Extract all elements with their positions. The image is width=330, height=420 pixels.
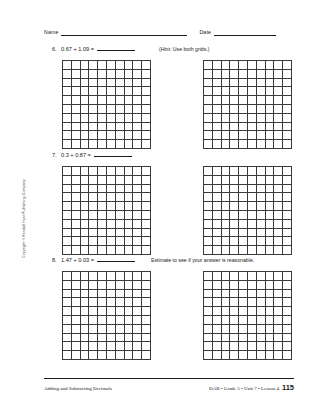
grid-cell[interactable] xyxy=(213,229,222,238)
grid-cell[interactable] xyxy=(222,334,231,343)
grid-cell[interactable] xyxy=(72,70,81,79)
grid-cell[interactable] xyxy=(98,79,107,88)
grid-cell[interactable] xyxy=(257,61,266,70)
grid-cell[interactable] xyxy=(266,167,275,176)
grid-cell[interactable] xyxy=(133,351,142,360)
grid-cell[interactable] xyxy=(266,316,275,325)
grid-cell[interactable] xyxy=(283,96,292,105)
grid-cell[interactable] xyxy=(213,61,222,70)
grid-cell[interactable] xyxy=(81,281,90,290)
grid-cell[interactable] xyxy=(248,229,257,238)
grid-cell[interactable] xyxy=(266,246,275,255)
hundredths-grid-right[interactable] xyxy=(203,271,292,360)
grid-cell[interactable] xyxy=(89,193,98,202)
grid-cell[interactable] xyxy=(107,185,116,194)
grid-cell[interactable] xyxy=(274,131,283,140)
grid-cell[interactable] xyxy=(266,202,275,211)
grid-cell[interactable] xyxy=(274,272,283,281)
grid-cell[interactable] xyxy=(125,334,134,343)
grid-cell[interactable] xyxy=(133,176,142,185)
grid-cell[interactable] xyxy=(125,61,134,70)
grid-cell[interactable] xyxy=(274,105,283,114)
grid-cell[interactable] xyxy=(222,307,231,316)
grid-cell[interactable] xyxy=(63,114,72,123)
grid-cell[interactable] xyxy=(107,307,116,316)
grid-cell[interactable] xyxy=(125,342,134,351)
grid-cell[interactable] xyxy=(283,87,292,96)
grid-cell[interactable] xyxy=(63,131,72,140)
grid-cell[interactable] xyxy=(266,229,275,238)
grid-cell[interactable] xyxy=(257,167,266,176)
grid-cell[interactable] xyxy=(116,307,125,316)
grid-cell[interactable] xyxy=(257,79,266,88)
grid-cell[interactable] xyxy=(89,342,98,351)
grid-cell[interactable] xyxy=(72,61,81,70)
grid-cell[interactable] xyxy=(230,193,239,202)
grid-cell[interactable] xyxy=(204,131,213,140)
grid-cell[interactable] xyxy=(248,342,257,351)
grid-cell[interactable] xyxy=(274,342,283,351)
problem-6-answer-blank[interactable] xyxy=(97,44,135,51)
grid-cell[interactable] xyxy=(230,220,239,229)
grid-cell[interactable] xyxy=(63,70,72,79)
grid-cell[interactable] xyxy=(222,211,231,220)
grid-cell[interactable] xyxy=(72,290,81,299)
grid-cell[interactable] xyxy=(98,325,107,334)
grid-cell[interactable] xyxy=(133,167,142,176)
grid-cell[interactable] xyxy=(63,140,72,149)
grid-cell[interactable] xyxy=(107,70,116,79)
grid-cell[interactable] xyxy=(98,70,107,79)
grid-cell[interactable] xyxy=(204,105,213,114)
grid-cell[interactable] xyxy=(248,176,257,185)
grid-cell[interactable] xyxy=(239,237,248,246)
grid-cell[interactable] xyxy=(107,281,116,290)
grid-cell[interactable] xyxy=(283,185,292,194)
grid-cell[interactable] xyxy=(125,87,134,96)
grid-cell[interactable] xyxy=(204,316,213,325)
grid-cell[interactable] xyxy=(125,131,134,140)
grid-cell[interactable] xyxy=(81,307,90,316)
grid-cell[interactable] xyxy=(133,307,142,316)
grid-cell[interactable] xyxy=(239,229,248,238)
grid-cell[interactable] xyxy=(142,131,151,140)
grid-cell[interactable] xyxy=(81,114,90,123)
grid-cell[interactable] xyxy=(257,202,266,211)
grid-cell[interactable] xyxy=(63,96,72,105)
grid-cell[interactable] xyxy=(142,202,151,211)
grid-cell[interactable] xyxy=(257,272,266,281)
grid-cell[interactable] xyxy=(248,211,257,220)
grid-cell[interactable] xyxy=(222,342,231,351)
grid-cell[interactable] xyxy=(142,87,151,96)
grid-cell[interactable] xyxy=(213,114,222,123)
grid-cell[interactable] xyxy=(213,290,222,299)
grid-cell[interactable] xyxy=(107,325,116,334)
grid-cell[interactable] xyxy=(72,316,81,325)
grid-cell[interactable] xyxy=(248,202,257,211)
grid-cell[interactable] xyxy=(213,211,222,220)
grid-cell[interactable] xyxy=(204,307,213,316)
grid-cell[interactable] xyxy=(222,272,231,281)
grid-cell[interactable] xyxy=(274,96,283,105)
grid-cell[interactable] xyxy=(239,281,248,290)
grid-cell[interactable] xyxy=(81,123,90,132)
grid-cell[interactable] xyxy=(142,211,151,220)
grid-cell[interactable] xyxy=(213,237,222,246)
grid-cell[interactable] xyxy=(89,290,98,299)
grid-cell[interactable] xyxy=(89,61,98,70)
grid-cell[interactable] xyxy=(98,123,107,132)
grid-cell[interactable] xyxy=(72,79,81,88)
grid-cell[interactable] xyxy=(72,131,81,140)
grid-cell[interactable] xyxy=(142,334,151,343)
grid-cell[interactable] xyxy=(248,237,257,246)
grid-cell[interactable] xyxy=(72,140,81,149)
grid-cell[interactable] xyxy=(142,229,151,238)
grid-cell[interactable] xyxy=(116,79,125,88)
grid-cell[interactable] xyxy=(63,167,72,176)
grid-cell[interactable] xyxy=(204,290,213,299)
grid-cell[interactable] xyxy=(230,237,239,246)
grid-cell[interactable] xyxy=(81,167,90,176)
grid-cell[interactable] xyxy=(204,96,213,105)
grid-cell[interactable] xyxy=(63,325,72,334)
grid-cell[interactable] xyxy=(98,237,107,246)
grid-cell[interactable] xyxy=(230,87,239,96)
